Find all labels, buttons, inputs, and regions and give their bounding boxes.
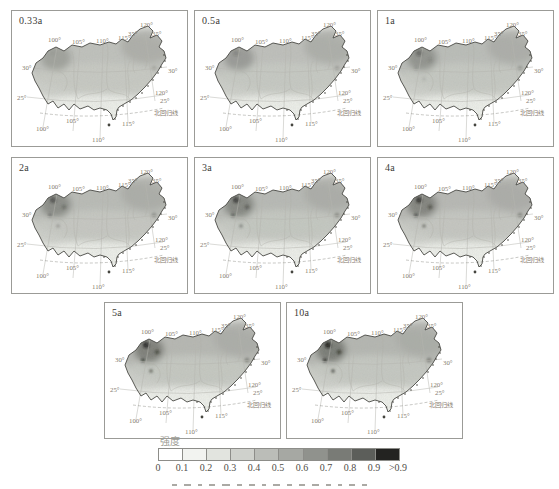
legend-title: 强度: [160, 433, 180, 448]
map-svg: 100° 105° 110° 115° 120° 35° 35° 30° 30°…: [12, 11, 187, 146]
lon-label: 110°: [185, 428, 198, 435]
legend-tick-labels: 00.10.20.30.40.50.60.70.80.9>0.9: [0, 462, 559, 476]
lon-label: 120°: [248, 381, 261, 388]
lon-label: 105°: [66, 117, 79, 124]
lat-label: 35°: [245, 322, 255, 329]
lon-label: 105°: [249, 117, 262, 124]
lat-label: 35°: [221, 322, 231, 329]
lat-label: 30°: [297, 356, 307, 363]
lat-label: 30°: [351, 67, 361, 74]
lat-label: 25°: [110, 386, 120, 393]
lon-label: 105°: [255, 38, 268, 45]
lon-label: 120°: [521, 89, 534, 96]
lat-label: 25°: [526, 97, 536, 104]
lat-label: 25°: [253, 389, 263, 396]
colorbar-segment: [182, 449, 206, 460]
colorbar-tick-label: 0.5: [272, 462, 285, 473]
lon-label: 110°: [279, 184, 292, 191]
map-svg: 100° 105° 110° 115° 120° 35° 35° 30° 30°…: [287, 303, 462, 438]
lon-label: 100°: [219, 125, 232, 132]
lon-label: 100°: [402, 125, 415, 132]
lon-label: 100°: [402, 272, 415, 279]
lon-label: 110°: [275, 283, 288, 290]
tropic-of-cancer-line: [133, 400, 257, 408]
lon-label: 120°: [140, 168, 153, 175]
lon-label: 110°: [92, 283, 105, 290]
tropic-of-cancer-line: [223, 108, 347, 116]
caption-glyph-fragment: [262, 484, 266, 486]
panel-time-scale-label: 0.33a: [19, 15, 42, 26]
lat-label: 35°: [128, 30, 138, 37]
lon-label: 100°: [219, 272, 232, 279]
colorbar-segment: [206, 449, 230, 460]
lon-label: 120°: [415, 313, 428, 320]
lon-label: 120°: [323, 21, 336, 28]
colorbar-tick-label: 0: [156, 462, 161, 473]
caption-glyph-fragment: [312, 484, 319, 486]
hainan-dot: [383, 416, 386, 419]
lon-label: 115°: [122, 267, 135, 274]
lon-label: 105°: [438, 38, 451, 45]
caption-glyph-fragment: [198, 484, 202, 486]
map-svg: 100° 105° 110° 115° 120° 35° 35° 30° 30°…: [12, 158, 187, 293]
hainan-dot: [201, 416, 204, 419]
lat-label: 35°: [335, 30, 345, 37]
lon-label: 115°: [305, 267, 318, 274]
lat-label: 30°: [168, 214, 178, 221]
lon-label: 120°: [506, 21, 519, 28]
lat-label: 30°: [22, 211, 32, 218]
lon-label: 105°: [249, 264, 262, 271]
lat-label: 35°: [128, 177, 138, 184]
map-svg: 100° 105° 110° 115° 120° 35° 35° 30° 30°…: [378, 11, 553, 146]
lon-label: 115°: [305, 120, 318, 127]
lon-label: 110°: [189, 329, 202, 336]
legend-colorbar: [158, 448, 400, 461]
lon-label: 110°: [275, 136, 288, 143]
lat-label: 35°: [311, 30, 321, 37]
colorbar-segment: [278, 449, 302, 460]
lon-label: 105°: [341, 409, 354, 416]
lon-label: 110°: [92, 136, 105, 143]
lat-label: 25°: [17, 94, 27, 101]
lat-label: 30°: [115, 356, 125, 363]
caption-glyph-fragment: [362, 484, 367, 486]
lon-label: 120°: [155, 89, 168, 96]
hainan-dot: [108, 271, 111, 274]
tropic-of-cancer-line: [40, 108, 164, 116]
colorbar-tick-label: 0.8: [344, 462, 357, 473]
caption-glyph-fragment: [249, 484, 255, 486]
lat-label: 30°: [534, 67, 544, 74]
panel-time-scale-label: 0.5a: [202, 15, 220, 26]
panel-time-scale-label: 2a: [19, 162, 29, 173]
lon-label: 115°: [397, 412, 410, 419]
tropic-of-cancer-label: 北回归线: [429, 401, 453, 409]
lon-label: 110°: [458, 136, 471, 143]
lat-label: 35°: [494, 177, 504, 184]
lat-label: 35°: [311, 177, 321, 184]
map-svg: 100° 105° 110° 115° 120° 35° 35° 30° 30°…: [195, 11, 370, 146]
figure-canvas: 0.33a: [0, 0, 559, 489]
caption-glyph-fragment: [237, 484, 242, 486]
caption-glyph-fragment: [209, 484, 215, 486]
hainan-dot: [108, 124, 111, 127]
lon-label: 105°: [432, 264, 445, 271]
lat-label: 25°: [200, 241, 210, 248]
figure-caption-clipped: [172, 483, 434, 488]
colorbar-tick-label: 0.2: [200, 462, 213, 473]
tropic-of-cancer-line: [406, 255, 530, 263]
colorbar-segment: [254, 449, 278, 460]
tropic-of-cancer-label: 北回归线: [247, 401, 271, 409]
lat-label: 30°: [261, 359, 271, 366]
lat-label: 30°: [205, 64, 215, 71]
lat-label: 25°: [200, 94, 210, 101]
lon-label: 120°: [323, 168, 336, 175]
lon-label: 110°: [96, 37, 109, 44]
colorbar-segment: [351, 449, 375, 460]
caption-glyph-fragment: [222, 484, 230, 486]
lon-label: 110°: [462, 184, 475, 191]
lat-label: 35°: [518, 177, 528, 184]
lat-label: 35°: [427, 322, 437, 329]
lon-label: 105°: [255, 185, 268, 192]
lon-label: 110°: [367, 428, 380, 435]
tropic-of-cancer-label: 北回归线: [337, 109, 361, 117]
